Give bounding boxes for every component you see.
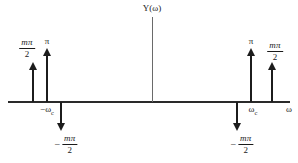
signal-label: Y(ω) xyxy=(143,4,161,13)
amplitude-label-right-pi: π xyxy=(249,37,254,46)
fraction-numerator: mπ xyxy=(19,38,35,48)
omega-axis xyxy=(8,101,290,103)
amplitude-label-left-minus-mpi-over-2: − mπ 2 xyxy=(54,134,77,155)
amplitude-label-left-mpi-over-2: mπ 2 xyxy=(19,38,35,59)
frequency-spectrum-figure: Y(ω) mπ 2 π −ωc − mπ 2 xyxy=(0,0,298,163)
tick-label-negative-cutoff-subscript: c xyxy=(51,109,54,116)
fraction-denominator: 2 xyxy=(68,145,73,155)
center-impulse-line xyxy=(152,17,153,102)
minus-sign: − xyxy=(54,140,60,150)
axis-label-omega: ω xyxy=(286,105,292,114)
tick-label-positive-cutoff: ωc xyxy=(249,105,258,116)
tick-label-positive-cutoff-subscript: c xyxy=(255,109,258,116)
impulse-shaft xyxy=(32,68,34,102)
arrowhead-down-icon xyxy=(233,123,241,131)
impulse-shaft xyxy=(46,54,48,102)
fraction-denominator: 2 xyxy=(244,145,249,155)
amplitude-label-right-minus-mpi-over-2: − mπ 2 xyxy=(230,134,253,155)
fraction-numerator: mπ xyxy=(267,41,283,51)
impulse-shaft xyxy=(236,102,238,125)
impulse-shaft xyxy=(60,102,62,125)
tick-label-negative-cutoff: −ωc xyxy=(40,105,54,116)
impulse-shaft xyxy=(271,68,273,102)
amplitude-label-right-mpi-over-2: mπ 2 xyxy=(267,41,283,62)
fraction-numerator: mπ xyxy=(62,134,78,144)
tick-label-negative-cutoff-text: −ω xyxy=(40,104,51,114)
fraction-denominator: 2 xyxy=(25,49,30,59)
impulse-shaft xyxy=(250,54,252,102)
arrowhead-down-icon xyxy=(57,123,65,131)
minus-sign: − xyxy=(230,140,236,150)
fraction-numerator: mπ xyxy=(238,134,254,144)
fraction-denominator: 2 xyxy=(273,52,278,62)
amplitude-label-left-pi: π xyxy=(45,37,50,46)
